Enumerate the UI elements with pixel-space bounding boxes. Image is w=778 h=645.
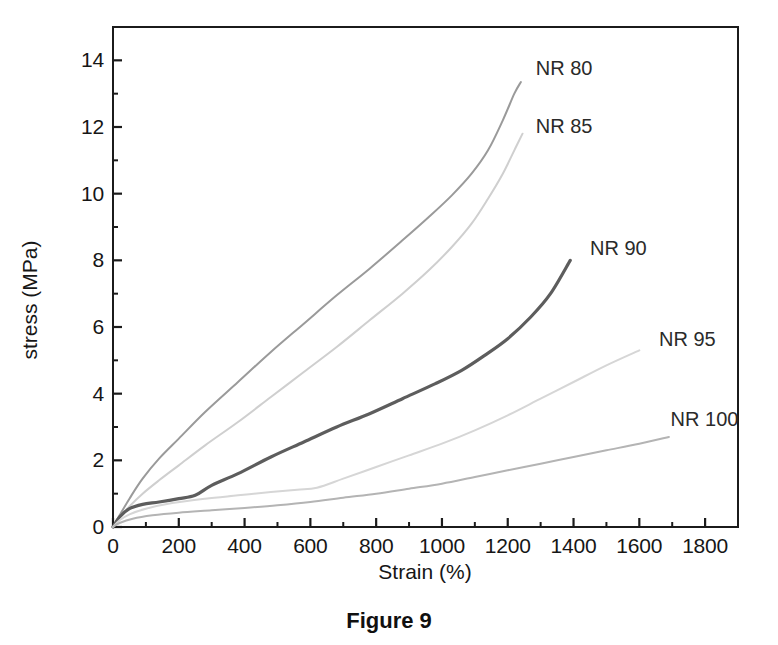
y-tick-label: 12 [60,115,104,139]
axis-ticks [113,60,705,527]
y-tick-label: 10 [60,182,104,206]
x-tick-label: 0 [107,534,118,558]
x-tick-label: 1200 [485,534,531,558]
y-axis-title: stress (MPa) [18,240,42,359]
y-tick-label: 4 [60,382,104,406]
x-tick-label: 1600 [616,534,662,558]
x-tick-label: 800 [359,534,393,558]
y-tick-label: 8 [60,248,104,272]
y-tick-label: 14 [60,48,104,72]
y-tick-label: 6 [60,315,104,339]
x-tick-label: 1400 [551,534,597,558]
series-curve-nr-80 [113,82,521,527]
y-tick-label: 2 [60,448,104,472]
x-tick-label: 200 [162,534,196,558]
data-series-curves [113,82,669,527]
figure-container: 0246810121402004006008001000120014001600… [0,0,778,645]
axes-frame [113,27,738,527]
series-label-nr-100: NR 100 [671,408,739,431]
series-label-nr-90: NR 90 [590,237,647,260]
series-label-nr-80: NR 80 [536,57,593,80]
series-label-nr-85: NR 85 [536,115,593,138]
figure-caption: Figure 9 [346,608,432,634]
x-tick-label: 600 [293,534,327,558]
series-curve-nr-100 [113,437,669,527]
x-tick-label: 1800 [682,534,728,558]
series-curve-nr-85 [113,134,523,527]
x-axis-title: Strain (%) [378,560,471,584]
x-tick-label: 400 [227,534,261,558]
y-tick-label: 0 [60,515,104,539]
series-curve-nr-95 [113,350,639,527]
series-label-nr-95: NR 95 [659,328,716,351]
x-tick-label: 1000 [419,534,465,558]
series-curve-nr-90 [113,260,570,527]
